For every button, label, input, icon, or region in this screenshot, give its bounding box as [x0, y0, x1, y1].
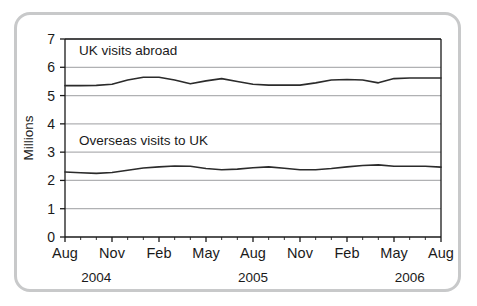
line-chart: 01234567 AugNovFebMayAugNovFebMayAug 200…: [17, 15, 464, 295]
x-axis-tick-label: Nov: [287, 245, 314, 261]
y-axis-tick-label: 4: [47, 116, 55, 132]
x-axis-tick-label: Nov: [99, 245, 126, 261]
y-axis-title: Millions: [21, 115, 36, 160]
y-axis-tick-label: 0: [47, 229, 55, 245]
y-axis-tick-label: 3: [47, 144, 55, 160]
series-line-0: [65, 77, 441, 85]
x-axis-tick-label: Feb: [147, 245, 172, 261]
y-axis-tick-label: 5: [47, 88, 55, 104]
x-axis-tick-label: May: [192, 245, 220, 261]
y-axis-ticks-group: [60, 39, 65, 237]
gridlines-group: [65, 39, 441, 209]
x-axis-ticks-group: [65, 237, 441, 242]
x-axis-tick-label: May: [380, 245, 408, 261]
y-axis-tick-labels-group: 01234567: [47, 31, 55, 245]
x-axis-tick-label: Feb: [335, 245, 360, 261]
y-axis-tick-label: 1: [47, 201, 55, 217]
series-label-1: Overseas visits to UK: [79, 133, 208, 148]
y-axis-tick-label: 6: [47, 59, 55, 75]
x-axis-year-label: 2006: [395, 270, 425, 285]
y-axis-tick-label: 2: [47, 172, 55, 188]
y-axis-tick-label: 7: [47, 31, 55, 47]
x-axis-year-label: 2005: [238, 270, 268, 285]
x-axis-tick-label: Aug: [52, 245, 78, 261]
series-line-1: [65, 165, 441, 173]
x-axis-year-labels-group: 200420052006: [81, 270, 424, 285]
series-lines-group: [65, 77, 441, 173]
x-axis-tick-labels-group: AugNovFebMayAugNovFebMayAug: [52, 245, 454, 261]
x-axis-tick-label: Aug: [240, 245, 266, 261]
series-label-0: UK visits abroad: [79, 43, 177, 58]
chart-figure-frame: 01234567 AugNovFebMayAugNovFebMayAug 200…: [14, 12, 461, 292]
x-axis-tick-label: Aug: [428, 245, 454, 261]
x-axis-year-label: 2004: [81, 270, 112, 285]
